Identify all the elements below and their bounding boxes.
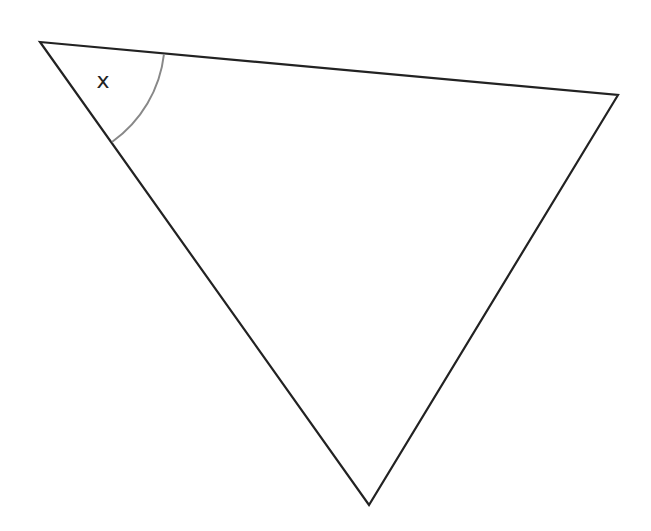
triangle xyxy=(40,42,618,505)
triangle-diagram: x xyxy=(0,0,651,531)
angle-label: x xyxy=(96,68,109,93)
angle-arc xyxy=(112,54,164,142)
